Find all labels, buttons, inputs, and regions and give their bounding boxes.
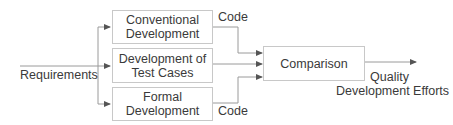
test-cases-line1: Development of — [119, 52, 207, 66]
conventional-development-line2: Development — [126, 27, 200, 41]
code-label-top: Code — [218, 10, 248, 24]
test-cases-line2: Test Cases — [132, 66, 194, 80]
formal-development-line1: Formal — [143, 90, 182, 104]
output-label-line2: Development Efforts — [336, 84, 449, 98]
output-label-line1: Quality — [370, 70, 409, 84]
requirements-label: Requirements — [20, 68, 98, 82]
comparison-box: Comparison — [263, 46, 365, 81]
conventional-development-box: Conventional Development — [112, 10, 213, 44]
code-label-bottom: Code — [218, 104, 248, 118]
formal-development-box: Formal Development — [112, 87, 213, 121]
formal-development-line2: Development — [126, 104, 200, 118]
conventional-development-line1: Conventional — [126, 13, 199, 27]
comparison-label: Comparison — [280, 57, 347, 71]
test-cases-box: Development of Test Cases — [112, 48, 213, 83]
